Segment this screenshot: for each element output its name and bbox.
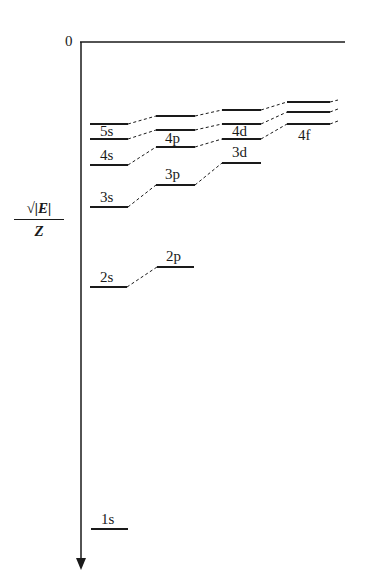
label-3d: 3d bbox=[232, 145, 247, 160]
connector-4d-4f bbox=[261, 124, 287, 139]
connector-2s-2p bbox=[127, 267, 157, 287]
connector-5f-tail bbox=[330, 109, 338, 112]
connector-6p-6d bbox=[195, 110, 222, 116]
label-4f: 4f bbox=[298, 128, 311, 143]
y-axis-label-denominator: Z bbox=[14, 220, 64, 240]
y-axis-label-numerator: √|E| bbox=[14, 200, 64, 220]
label-3s: 3s bbox=[100, 190, 113, 205]
y-axis-label: √|E| Z bbox=[14, 200, 64, 240]
connector-3s-3p bbox=[128, 185, 156, 207]
connector-6f-tail bbox=[330, 100, 338, 102]
label-2p: 2p bbox=[166, 249, 181, 264]
connector-3p-3d bbox=[195, 163, 222, 185]
connector-5p-5d bbox=[195, 124, 222, 130]
y-axis-arrow-icon bbox=[76, 558, 86, 570]
label-5s: 5s bbox=[100, 124, 113, 139]
connector-4p-4d bbox=[195, 139, 222, 147]
connector-4f-tail bbox=[330, 121, 338, 124]
label-4p: 4p bbox=[165, 131, 180, 146]
connector-6s-6p bbox=[128, 116, 156, 124]
connector-5s-5p bbox=[128, 130, 156, 139]
label-2s: 2s bbox=[100, 270, 113, 285]
label-1s: 1s bbox=[101, 512, 114, 527]
connector-4s-4p bbox=[128, 147, 156, 165]
connector-5d-5f bbox=[261, 112, 287, 124]
energy-levels bbox=[90, 102, 330, 529]
energy-level-diagram bbox=[0, 0, 365, 586]
connector-6d-6f bbox=[261, 102, 287, 110]
label-4s: 4s bbox=[100, 148, 113, 163]
label-3p: 3p bbox=[165, 167, 180, 182]
zero-label: 0 bbox=[65, 34, 73, 49]
label-4d: 4d bbox=[232, 124, 247, 139]
